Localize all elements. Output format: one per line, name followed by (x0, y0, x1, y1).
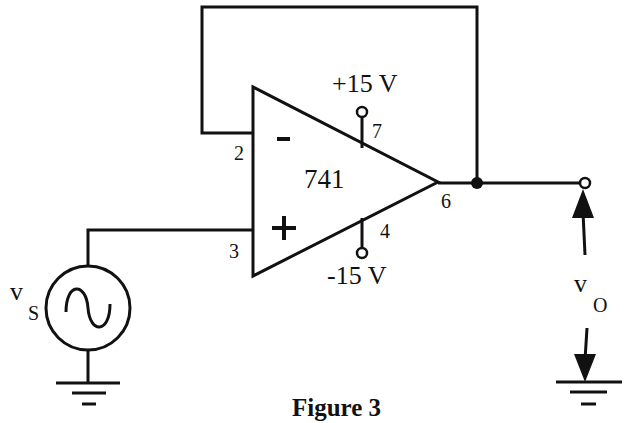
pin-2-label: 2 (234, 142, 244, 164)
vneg-terminal (357, 248, 367, 258)
junction-dot (471, 177, 483, 189)
vpos-terminal (357, 107, 367, 117)
pin-6-label: 6 (441, 190, 451, 212)
inverting-symbol (277, 137, 290, 141)
sine-wave-icon (66, 289, 110, 327)
opamp-part-label: 741 (304, 164, 345, 194)
vpos-label: +15 V (332, 69, 398, 98)
noninverting-symbol (272, 216, 296, 240)
circuit-diagram: +15 V -15 V 741 2 3 6 7 4 v S v O Figure… (0, 0, 634, 423)
pin-7-label: 7 (372, 120, 382, 142)
output-ground-icon (556, 382, 622, 404)
source-label-main: v (10, 277, 23, 306)
source-ground-icon (56, 383, 120, 404)
opamp-triangle (253, 87, 438, 276)
output-label-main: v (574, 269, 587, 298)
figure-caption: Figure 3 (292, 394, 381, 421)
pin-4-label: 4 (380, 220, 390, 242)
source-label-sub: S (28, 302, 39, 324)
output-label-sub: O (593, 294, 607, 316)
vneg-label: -15 V (327, 261, 387, 290)
vo-down-arrow-icon (574, 328, 596, 382)
output-terminal (580, 178, 590, 188)
pin-3-label: 3 (229, 240, 239, 262)
vo-up-arrow-icon (572, 189, 594, 255)
